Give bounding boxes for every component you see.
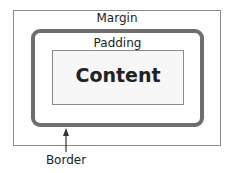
border-label: Border <box>44 153 88 167</box>
arrow-up-icon <box>0 0 235 173</box>
